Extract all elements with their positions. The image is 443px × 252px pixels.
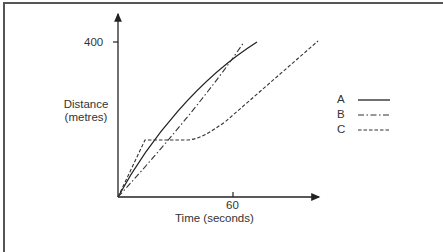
x-tick-label: 60: [226, 199, 239, 212]
legend-c-label: C: [337, 123, 345, 136]
series-c-line: [118, 41, 318, 197]
legend-a-label: A: [337, 93, 345, 106]
x-axis-label: Time (seconds): [175, 212, 254, 225]
y-axis-label-line2: (metres): [51, 111, 121, 124]
y-axis-label-line1: Distance: [51, 98, 121, 111]
legend-b-label: B: [337, 108, 345, 121]
y-axis-label: Distance (metres): [51, 98, 121, 124]
y-tick-label: 400: [84, 36, 103, 49]
series-a-line: [118, 42, 257, 197]
